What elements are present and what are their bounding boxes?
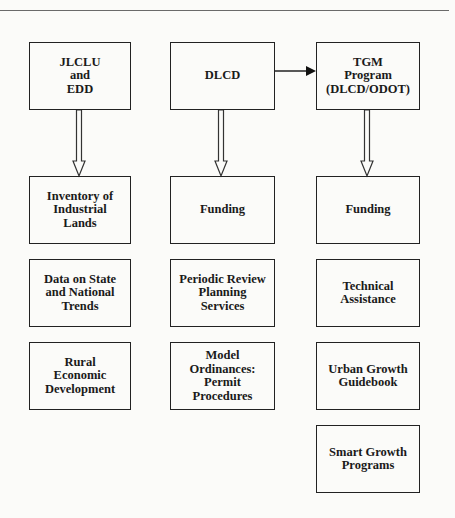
hollow-arrow-col3 [361,110,373,176]
box-technical-assistance: Technical Assistance [316,259,420,327]
box-label: Smart Growth Programs [329,446,407,473]
hollow-arrow-col2 [215,110,227,176]
hollow-arrow-col1 [73,110,85,176]
box-label: Inventory of Industrial Lands [47,190,113,231]
box-label: DLCD [205,69,240,83]
box-rural-economic-development: Rural Economic Development [29,342,131,410]
box-model-ordinances: Model Ordinances: Permit Procedures [170,342,275,410]
box-urban-growth-guidebook: Urban Growth Guidebook [316,342,420,410]
box-label: Model Ordinances: Permit Procedures [190,349,256,403]
box-tgm-program: TGM Program (DLCD/ODOT) [316,42,420,110]
box-label: Technical Assistance [340,280,396,307]
box-label: Funding [345,203,390,217]
box-funding-dlcd: Funding [170,176,275,244]
box-label: Data on State and National Trends [44,273,116,314]
arrow-dlcd-to-tgm [275,66,316,76]
box-inventory-industrial-lands: Inventory of Industrial Lands [29,176,131,244]
box-jlclu-edd: JLCLU and EDD [29,42,131,110]
box-label: Periodic Review Planning Services [179,273,265,314]
box-label: Urban Growth Guidebook [328,363,407,390]
box-periodic-review: Periodic Review Planning Services [170,259,275,327]
box-label: Rural Economic Development [45,356,115,397]
box-smart-growth-programs: Smart Growth Programs [316,425,420,493]
box-label: Funding [200,203,245,217]
box-label: TGM Program (DLCD/ODOT) [326,56,410,97]
box-label: JLCLU and EDD [60,56,101,97]
box-dlcd: DLCD [170,42,275,110]
box-data-state-national-trends: Data on State and National Trends [29,259,131,327]
box-funding-tgm: Funding [316,176,420,244]
